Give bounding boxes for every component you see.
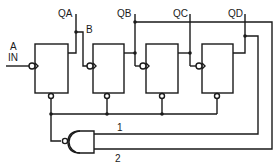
flip-flop-4 xyxy=(202,44,233,93)
junction-dot xyxy=(133,51,137,55)
label-qc: QC xyxy=(173,8,188,19)
clock-input-icon xyxy=(29,63,38,69)
clear-bubble-icon xyxy=(215,94,220,99)
label-wire-1: 1 xyxy=(117,122,123,133)
junction-dot xyxy=(133,20,137,24)
flip-flop-1 xyxy=(35,44,68,93)
junction-dot xyxy=(49,112,53,116)
label-qa: QA xyxy=(58,8,73,19)
clock-input-icon xyxy=(196,63,205,69)
junction-dot xyxy=(105,112,109,116)
label-qb: QB xyxy=(117,8,132,19)
flip-flop-3 xyxy=(146,44,178,93)
input-label-in: IN xyxy=(8,52,18,63)
input-label-a: A xyxy=(10,41,17,52)
flip-flop-2 xyxy=(93,44,124,93)
junction-dot xyxy=(160,112,164,116)
junction-dot xyxy=(243,34,247,38)
circuit-diagram: A IN QA B QB QC QD 1 2 xyxy=(0,0,280,168)
nand-gate xyxy=(62,131,94,153)
clear-bubble-icon xyxy=(49,94,54,99)
clock-input-icon xyxy=(140,63,149,69)
label-qd: QD xyxy=(228,8,243,19)
clear-bubble-icon xyxy=(105,94,110,99)
clear-bubble-icon xyxy=(160,94,165,99)
label-wire-2: 2 xyxy=(115,153,121,164)
junction-dot xyxy=(188,51,192,55)
clock-input-icon xyxy=(87,63,96,69)
label-b: B xyxy=(86,24,93,35)
junction-dot xyxy=(74,30,78,34)
